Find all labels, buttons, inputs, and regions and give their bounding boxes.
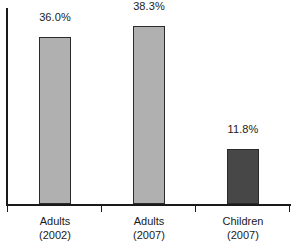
bar-group-adults-2007: 38.3% [102, 0, 196, 204]
bar-group-adults-2002: 36.0% [8, 0, 102, 204]
category-label-line1: Adults [40, 215, 71, 227]
bar-chart: 36.0% 38.3% 11.8% Adults (2002) Adults (… [0, 0, 299, 246]
category-label-adults-2007: Adults (2007) [102, 214, 196, 242]
x-axis-line [6, 204, 291, 206]
axis-tick-start [7, 206, 8, 212]
bar-value-label: 11.8% [228, 124, 259, 135]
category-label-line2: (2007) [102, 228, 196, 242]
axis-tick-end [289, 206, 290, 212]
category-label-line2: (2007) [196, 228, 290, 242]
axis-tick-divider-2 [195, 206, 196, 212]
bar-adults-2002 [39, 37, 71, 204]
bar-value-label: 36.0% [39, 12, 71, 23]
bar-adults-2007 [133, 26, 165, 204]
category-axis-labels: Adults (2002) Adults (2007) Children (20… [8, 214, 291, 246]
category-label-children-2007: Children (2007) [196, 214, 290, 242]
category-label-adults-2002: Adults (2002) [8, 214, 102, 242]
bar-children-2007 [227, 149, 259, 204]
bar-group-children-2007: 11.8% [196, 0, 290, 204]
category-label-line2: (2002) [8, 228, 102, 242]
category-label-line1: Children [223, 215, 264, 227]
axis-tick-divider-1 [101, 206, 102, 212]
bar-value-label: 38.3% [133, 1, 165, 12]
plot-area: 36.0% 38.3% 11.8% [8, 0, 291, 204]
category-label-line1: Adults [134, 215, 165, 227]
